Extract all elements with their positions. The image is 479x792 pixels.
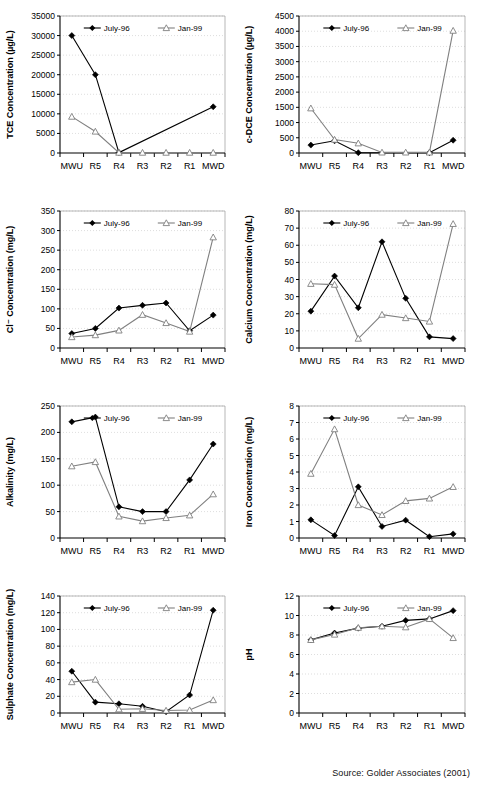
chart-svg-cdce: 050010001500200025003000350040004500MWUR… — [239, 0, 479, 195]
y-tick-label: 20 — [46, 691, 56, 701]
y-tick-label: 12 — [285, 591, 295, 601]
y-tick-label: 150 — [41, 284, 55, 294]
x-tick-label: R1 — [424, 721, 436, 731]
x-tick-label: R5 — [90, 356, 102, 366]
chart-svg-sulphate: 020406080100120140MWUR5R4R3R2R1MWDSulpha… — [0, 580, 239, 755]
x-tick-label: R5 — [90, 721, 102, 731]
y-tick-label: 40 — [46, 675, 56, 685]
y-tick-label: 10 — [285, 326, 295, 336]
x-tick-label: R3 — [376, 546, 388, 556]
chart-panel-alkalinity: 050100150200250MWUR5R4R3R2R1MWDAlkalinit… — [0, 390, 239, 580]
x-tick-label: MWU — [61, 356, 84, 366]
x-tick-label: R3 — [137, 161, 149, 171]
chart-svg-tce: 05000100001500020000250003000035000MWUR5… — [0, 0, 239, 195]
x-tick-label: R2 — [160, 356, 172, 366]
y-tick-label: 20000 — [31, 70, 55, 80]
y-tick-label: 60 — [285, 240, 295, 250]
x-tick-label: MWU — [300, 356, 323, 366]
y-tick-label: 3000 — [275, 57, 294, 67]
y-tick-label: 2000 — [275, 87, 294, 97]
y-axis-title: TCE Concentration (µg/L) — [5, 30, 15, 139]
y-axis-title: pH — [244, 649, 254, 661]
legend-label-july-96: July-96 — [343, 24, 369, 33]
chart-panel-iron: 012345678MWUR5R4R3R2R1MWDIron Concentrat… — [239, 390, 479, 580]
chart-panel-tce: 05000100001500020000250003000035000MWUR5… — [0, 0, 239, 195]
x-tick-label: R1 — [424, 356, 436, 366]
y-tick-label: 10000 — [31, 109, 55, 119]
chart-grid: 05000100001500020000250003000035000MWUR5… — [0, 0, 479, 755]
y-tick-label: 2 — [289, 500, 294, 510]
y-tick-label: 140 — [41, 591, 55, 601]
y-tick-label: 3 — [289, 484, 294, 494]
x-tick-label: MWU — [61, 546, 84, 556]
legend-label-jan-99: Jan-99 — [417, 219, 442, 228]
y-tick-label: 8 — [289, 401, 294, 411]
x-tick-label: R1 — [184, 546, 196, 556]
y-tick-label: 50 — [285, 257, 295, 267]
y-tick-label: 70 — [285, 223, 295, 233]
x-tick-label: R4 — [113, 721, 125, 731]
x-tick-label: R3 — [376, 161, 388, 171]
y-tick-label: 300 — [41, 226, 55, 236]
y-tick-label: 150 — [41, 454, 55, 464]
y-tick-label: 0 — [50, 343, 55, 353]
legend-label-jan-99: Jan-99 — [178, 219, 203, 228]
x-tick-label: R2 — [160, 161, 172, 171]
y-tick-label: 1 — [289, 517, 294, 527]
x-tick-label: MWU — [300, 721, 323, 731]
legend-label-jan-99: Jan-99 — [417, 24, 442, 33]
legend-label-jan-99: Jan-99 — [178, 414, 203, 423]
x-tick-label: R2 — [400, 161, 412, 171]
x-tick-label: R2 — [400, 546, 412, 556]
y-tick-label: 4000 — [275, 26, 294, 36]
y-tick-label: 7 — [289, 418, 294, 428]
y-tick-label: 80 — [285, 206, 295, 216]
x-tick-label: R3 — [376, 721, 388, 731]
legend-label-july-96: July-96 — [343, 219, 369, 228]
x-tick-label: R4 — [113, 546, 125, 556]
chart-panel-chloride: 050100150200250300350MWUR5R4R3R2R1MWDCl⁻… — [0, 195, 239, 390]
x-tick-label: R5 — [329, 546, 341, 556]
y-axis-title: Iron Concentration (mg/L) — [244, 417, 254, 528]
y-tick-label: 5 — [289, 451, 294, 461]
y-tick-label: 250 — [41, 245, 55, 255]
y-tick-label: 35000 — [31, 11, 55, 21]
y-tick-label: 6 — [289, 650, 294, 660]
y-tick-label: 10 — [285, 611, 295, 621]
x-tick-label: R3 — [137, 721, 149, 731]
chart-svg-calcium: 01020304050607080MWUR5R4R3R2R1MWDCalcium… — [239, 195, 479, 390]
chart-panel-ph: 024681012MWUR5R4R3R2R1MWDpHJuly-96Jan-99 — [239, 580, 479, 755]
x-tick-label: R1 — [184, 356, 196, 366]
y-axis-title: Cl⁻ Concentration (mg/L) — [5, 226, 15, 334]
y-tick-label: 8 — [289, 630, 294, 640]
y-tick-label: 30000 — [31, 31, 55, 41]
y-tick-label: 100 — [41, 304, 55, 314]
y-tick-label: 4 — [289, 669, 294, 679]
x-tick-label: R5 — [329, 721, 341, 731]
x-tick-label: MWU — [61, 721, 84, 731]
x-tick-label: R5 — [329, 161, 341, 171]
x-tick-label: R4 — [353, 356, 365, 366]
y-tick-label: 0 — [50, 533, 55, 543]
y-tick-label: 0 — [50, 148, 55, 158]
chart-panel-cdce: 050010001500200025003000350040004500MWUR… — [239, 0, 479, 195]
x-tick-label: MWD — [202, 721, 225, 731]
y-tick-label: 1500 — [275, 102, 294, 112]
y-tick-label: 80 — [46, 641, 56, 651]
x-tick-label: MWU — [300, 161, 323, 171]
y-tick-label: 200 — [41, 265, 55, 275]
chart-svg-ph: 024681012MWUR5R4R3R2R1MWDpHJuly-96Jan-99 — [239, 580, 479, 755]
y-tick-label: 40 — [285, 275, 295, 285]
chart-panel-calcium: 01020304050607080MWUR5R4R3R2R1MWDCalcium… — [239, 195, 479, 390]
y-tick-label: 0 — [289, 708, 294, 718]
y-tick-label: 500 — [280, 133, 294, 143]
y-tick-label: 120 — [41, 608, 55, 618]
y-tick-label: 350 — [41, 206, 55, 216]
x-tick-label: R4 — [113, 161, 125, 171]
chart-svg-chloride: 050100150200250300350MWUR5R4R3R2R1MWDCl⁻… — [0, 195, 239, 390]
x-tick-label: R4 — [353, 161, 365, 171]
x-tick-label: R2 — [400, 356, 412, 366]
x-tick-label: R5 — [90, 161, 102, 171]
y-tick-label: 25000 — [31, 50, 55, 60]
legend-label-jan-99: Jan-99 — [178, 24, 203, 33]
